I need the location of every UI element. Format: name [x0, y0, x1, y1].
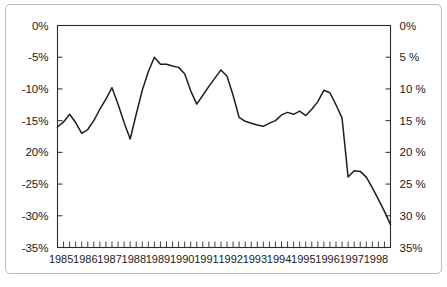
y-tick-label-left: 0%	[32, 20, 49, 32]
data-series-line	[58, 57, 391, 224]
y-tick-label-right: 30 %	[400, 210, 426, 222]
x-tick-label: 1990	[170, 253, 194, 265]
chart-figure: 0%-5%-10%-15%20%-25%-30%-35% 0%5 %10 %15…	[0, 0, 447, 287]
y-tick-label-left: -5%	[28, 51, 48, 63]
x-tick-label: 1997	[340, 253, 364, 265]
x-tick-label: 1993	[243, 253, 267, 265]
y-tick-label-right: 15 %	[400, 115, 426, 127]
y-tick-label-left: -30%	[22, 210, 49, 222]
x-tick-label: 1992	[218, 253, 242, 265]
y-tick-label-right: 5 %	[400, 51, 420, 63]
x-minor-tick-marks	[58, 242, 391, 248]
x-tick-label: 1994	[267, 253, 291, 265]
y-axis-right: 0%5 %10 %15 %20 %25 %30 %35%	[400, 20, 426, 254]
x-axis-labels: 1985198619871988198919901991199219931994…	[49, 253, 388, 265]
x-tick-label: 1991	[194, 253, 218, 265]
y-tick-label-left: -25%	[22, 178, 49, 190]
y-tick-label-right: 25 %	[400, 178, 426, 190]
y-tick-label-left: -10%	[22, 83, 49, 95]
y-tick-label-left: -35%	[22, 242, 49, 254]
y-tick-label-left: 20%	[25, 146, 48, 158]
x-tick-label: 1987	[97, 253, 121, 265]
y-axis-left: 0%-5%-10%-15%20%-25%-30%-35%	[22, 20, 49, 254]
x-tick-label: 1988	[122, 253, 146, 265]
y-tick-label-right: 35%	[400, 242, 423, 254]
y-tick-label-left: -15%	[22, 115, 49, 127]
x-tick-label: 1995	[291, 253, 315, 265]
y-tick-label-right: 10 %	[400, 83, 426, 95]
y-tick-label-right: 0%	[400, 20, 417, 32]
x-tick-label: 1989	[146, 253, 170, 265]
x-tick-label: 1998	[364, 253, 388, 265]
y-tick-marks	[58, 57, 391, 216]
y-tick-label-right: 20 %	[400, 146, 426, 158]
line-chart: 0%-5%-10%-15%20%-25%-30%-35% 0%5 %10 %15…	[0, 0, 447, 287]
plot-frame	[58, 26, 391, 248]
x-tick-label: 1985	[49, 253, 73, 265]
x-tick-label: 1996	[315, 253, 339, 265]
x-tick-label: 1986	[73, 253, 97, 265]
